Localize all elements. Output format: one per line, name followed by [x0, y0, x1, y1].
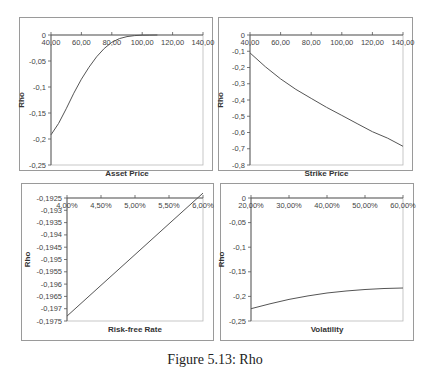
- x-axis-title: Asset Price: [105, 169, 149, 178]
- x-tick-label: 4,50%: [90, 201, 112, 210]
- y-tick-label: -0,194: [41, 230, 62, 239]
- y-tick-label: -0,2: [33, 135, 46, 144]
- y-tick-label: -0,05: [229, 218, 246, 227]
- figure-caption: Figure 5.13: Rho: [0, 352, 430, 368]
- y-tick-label: -0,195: [41, 255, 62, 264]
- y-tick-label: -0,2: [232, 63, 245, 72]
- y-tick-label: -0,4: [232, 96, 245, 105]
- rho-line-volatility: [251, 288, 403, 309]
- y-tick-label: -0,8: [232, 161, 245, 170]
- plot-area-strike-price: [250, 35, 403, 165]
- x-tick-label: 100,00: [131, 38, 154, 47]
- y-tick-label: -0,6: [232, 128, 245, 137]
- y-tick-label: -0,05: [29, 57, 46, 66]
- y-tick-label: -0,1: [232, 47, 245, 56]
- x-tick-label: 100,00: [330, 38, 353, 47]
- x-tick-label: 40,00: [42, 38, 61, 47]
- x-tick-label: 5,50%: [158, 201, 180, 210]
- x-tick-label: 60,00: [271, 38, 290, 47]
- x-tick-label: 60,00: [72, 38, 91, 47]
- y-tick-label: -0,1955: [37, 267, 62, 276]
- y-tick-label: -0,15: [29, 109, 46, 118]
- y-tick-label: -0,1: [33, 83, 46, 92]
- x-axis-title: Strike Price: [304, 169, 349, 178]
- x-tick-label: 60,00%: [390, 201, 416, 210]
- x-tick-label: 4,00%: [56, 201, 78, 210]
- y-tick-label: -0,15: [229, 267, 246, 276]
- y-axis-title: Rho: [216, 92, 225, 108]
- y-tick-label: -0,3: [232, 79, 245, 88]
- y-tick-label: -0,1945: [37, 243, 62, 252]
- x-tick-label: 140,00: [192, 38, 215, 47]
- plot-area-risk-free-rate: [67, 198, 203, 321]
- y-tick-label: -0,25: [229, 317, 246, 326]
- x-tick-label: 80,00: [302, 38, 321, 47]
- x-tick-label: 40,00%: [314, 201, 340, 210]
- y-tick-label: -0,1935: [37, 218, 62, 227]
- rho-line-asset-price: [51, 35, 157, 135]
- x-tick-label: 140,00: [392, 38, 415, 47]
- x-tick-label: 120,00: [361, 38, 384, 47]
- x-tick-label: 120,00: [161, 38, 184, 47]
- rho-line-risk-free-rate: [67, 193, 203, 316]
- x-axis-title: Volatility: [311, 325, 344, 334]
- y-tick-label: -0,7: [232, 144, 245, 153]
- y-tick-label: -0,197: [41, 304, 62, 313]
- y-axis-title: Rho: [17, 92, 26, 108]
- y-tick-label: -0,1: [233, 243, 246, 252]
- plot-area-asset-price: [51, 35, 203, 165]
- x-tick-label: 6,00%: [192, 201, 214, 210]
- y-tick-label: -0,2: [233, 292, 246, 301]
- x-axis-title: Risk-free Rate: [108, 325, 162, 334]
- x-tick-label: 40,00: [241, 38, 260, 47]
- y-tick-label: -0,5: [232, 112, 245, 121]
- y-tick-label: -0,25: [29, 161, 46, 170]
- y-tick-label: -0,1965: [37, 292, 62, 301]
- y-tick-label: -0,196: [41, 280, 62, 289]
- x-tick-label: 20,00%: [238, 201, 264, 210]
- y-tick-label: -0,1975: [37, 317, 62, 326]
- x-tick-label: 30,00%: [276, 201, 302, 210]
- rho-line-strike-price: [250, 53, 403, 146]
- y-axis-title: Rho: [23, 252, 32, 268]
- x-tick-label: 5,00%: [124, 201, 146, 210]
- x-tick-label: 50,00%: [352, 201, 378, 210]
- y-axis-title: Rho: [217, 252, 226, 268]
